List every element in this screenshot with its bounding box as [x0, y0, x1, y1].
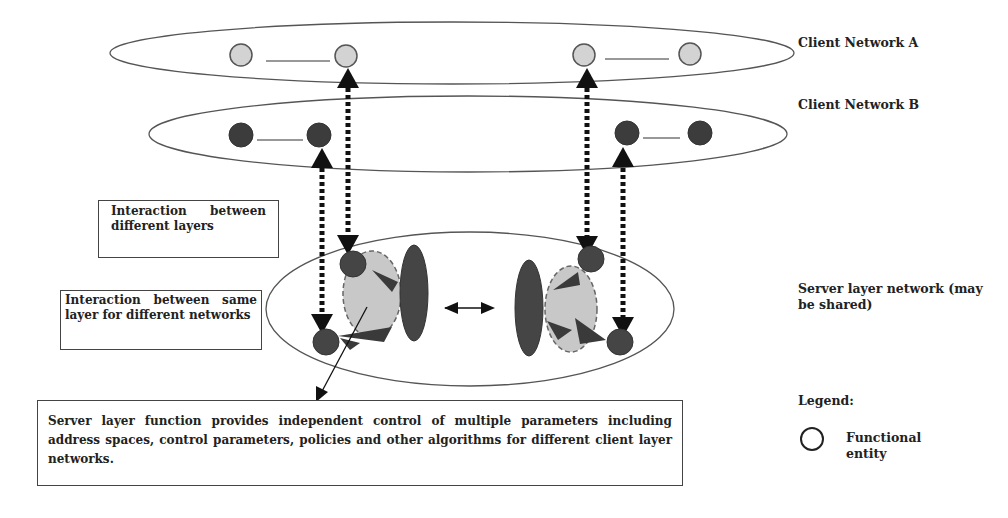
callout-text: Interaction between different layers: [111, 204, 266, 234]
callout-text: Server layer function provides independe…: [48, 412, 672, 469]
client-a-nodes: [230, 43, 701, 67]
callout-interaction-different-layers: Interaction between different layers: [98, 200, 279, 258]
callout-interaction-same-layer: Interaction between same layer for diffe…: [60, 290, 262, 350]
legend-functional-entity-label: Functional entity: [846, 430, 966, 462]
left-server-cluster: [313, 245, 428, 355]
client-network-b-label: Client Network B: [798, 97, 919, 113]
legend-title: Legend:: [798, 393, 854, 409]
callout-server-layer-function: Server layer function provides independe…: [37, 400, 683, 486]
server-layer-ellipse: [266, 232, 674, 386]
functional-entity-icon: [800, 427, 824, 451]
peer-arrow: [444, 302, 495, 314]
client-network-a-label: Client Network A: [798, 35, 918, 51]
client-b-nodes: [229, 121, 712, 147]
right-server-cluster: [515, 246, 633, 356]
callout-text: Interaction between same layer for diffe…: [65, 293, 257, 323]
server-layer-label: Server layer network (may be shared): [798, 281, 988, 313]
